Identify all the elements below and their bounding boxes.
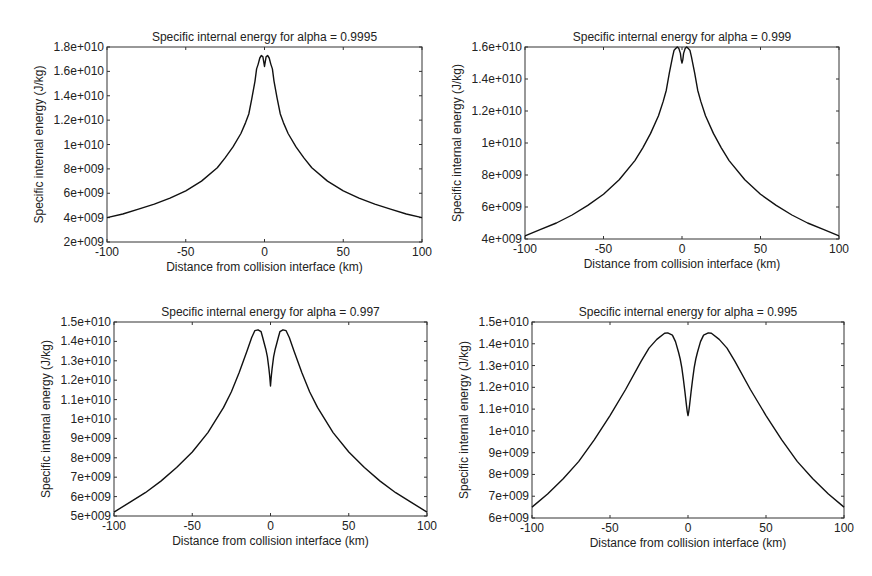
x-tick-label: 0 [685,521,692,535]
y-tick-label: 1e+010 [489,424,530,438]
plot-area [525,47,839,239]
y-tick-label: 4e+009 [64,211,105,225]
chart-title: Specific internal energy for alpha = 0.9… [152,30,377,44]
y-tick-label: 1.3e+010 [479,359,530,373]
plot-area [114,322,427,516]
y-axis-label: Specific internal energy (J/kg) [450,64,464,222]
y-axis-label: Specific internal energy (J/kg) [32,65,46,223]
y-tick-label: 6e+009 [482,200,523,214]
x-tick-label: 100 [412,245,432,259]
x-tick-label: 0 [679,242,686,256]
y-tick-label: 6e+009 [64,186,105,200]
y-tick-label: 1.5e+010 [61,315,112,329]
x-axis-label: Distance from collision interface (km) [584,257,781,271]
x-tick-label: 0 [267,519,274,533]
x-tick-label: 50 [342,519,356,533]
chart-2: -100-500501004e+0096e+0098e+0091e+0101.2… [450,30,849,271]
y-tick-label: 5e+009 [71,509,112,523]
y-axis-label: Specific internal energy (J/kg) [39,340,53,498]
y-tick-label: 1.4e+010 [472,72,523,86]
chart-3: -100-500501005e+0096e+0097e+0098e+0099e+… [39,305,437,548]
x-tick-label: -50 [184,519,202,533]
y-axis-label: Specific internal energy (J/kg) [457,341,471,499]
x-axis-label: Distance from collision interface (km) [172,534,369,548]
y-tick-label: 8e+009 [489,467,530,481]
x-tick-label: 50 [754,242,768,256]
y-tick-label: 7e+009 [489,489,530,503]
chart-title: Specific internal energy for alpha = 0.9… [579,305,798,319]
y-tick-label: 1.2e+010 [54,113,105,127]
y-tick-label: 4e+009 [482,232,523,246]
x-tick-label: 100 [829,242,849,256]
y-tick-label: 1e+010 [482,136,523,150]
y-tick-label: 1e+010 [71,412,112,426]
y-tick-label: 1.4e+010 [479,337,530,351]
y-tick-label: 9e+009 [71,431,112,445]
y-tick-label: 1e+010 [64,138,105,152]
x-tick-label: 0 [261,245,268,259]
plot-area [532,322,844,518]
y-tick-label: 1.6e+010 [54,64,105,78]
y-tick-label: 8e+009 [71,451,112,465]
figure-canvas: -100-500501002e+0094e+0096e+0098e+0091e+… [0,0,872,576]
y-tick-label: 1.2e+010 [61,373,112,387]
chart-title: Specific internal energy for alpha = 0.9… [161,305,380,319]
y-tick-label: 9e+009 [489,446,530,460]
y-tick-label: 1.5e+010 [479,315,530,329]
plot-area [107,47,422,242]
y-tick-label: 1.8e+010 [54,40,105,54]
y-tick-label: 1.4e+010 [61,334,112,348]
chart-4: -100-500501006e+0097e+0098e+0099e+0091e+… [457,305,854,550]
y-tick-label: 1.2e+010 [472,104,523,118]
y-tick-label: 1.1e+010 [61,393,112,407]
x-tick-label: 50 [337,245,351,259]
y-tick-label: 1.1e+010 [479,402,530,416]
figure-panel: -100-500501002e+0094e+0096e+0098e+0091e+… [0,0,872,576]
y-tick-label: 1.3e+010 [61,354,112,368]
y-tick-label: 6e+009 [71,490,112,504]
y-tick-label: 1.4e+010 [54,89,105,103]
y-tick-label: 1.2e+010 [479,380,530,394]
y-tick-label: 6e+009 [489,511,530,525]
x-tick-label: 100 [417,519,437,533]
chart-1: -100-500501002e+0094e+0096e+0098e+0091e+… [32,30,432,274]
x-tick-label: -50 [601,521,619,535]
y-tick-label: 8e+009 [64,162,105,176]
chart-title: Specific internal energy for alpha = 0.9… [573,30,792,44]
y-tick-label: 8e+009 [482,168,523,182]
y-tick-label: 7e+009 [71,470,112,484]
x-axis-label: Distance from collision interface (km) [166,260,363,274]
x-tick-label: 50 [759,521,773,535]
x-tick-label: 100 [834,521,854,535]
x-tick-label: -50 [595,242,613,256]
x-tick-label: -50 [177,245,195,259]
y-tick-label: 1.6e+010 [472,40,523,54]
x-axis-label: Distance from collision interface (km) [590,536,787,550]
y-tick-label: 2e+009 [64,235,105,249]
